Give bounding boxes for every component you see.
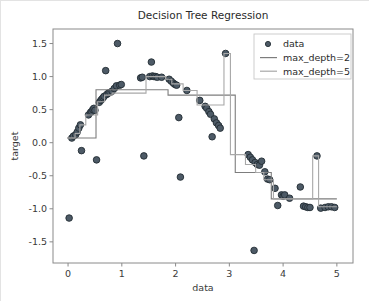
x-tick-label: 2 bbox=[173, 268, 179, 279]
y-tick-label: 0.5 bbox=[32, 104, 47, 115]
x-axis-label: data bbox=[192, 282, 213, 293]
data-point bbox=[118, 81, 125, 88]
data-point bbox=[66, 215, 73, 222]
chart-figure: 012345-1.5-1.0-0.50.00.51.01.5 datamax_d… bbox=[0, 0, 369, 301]
data-point bbox=[217, 125, 224, 132]
data-point bbox=[158, 74, 165, 81]
data-point bbox=[262, 168, 269, 175]
data-point bbox=[173, 82, 180, 89]
data-point bbox=[209, 133, 216, 140]
chart-title: Decision Tree Regression bbox=[138, 9, 269, 21]
data-point bbox=[102, 67, 109, 74]
x-tick-label: 1 bbox=[119, 268, 125, 279]
legend-marker-icon bbox=[265, 41, 270, 46]
y-axis-label: target bbox=[9, 131, 20, 160]
data-point bbox=[331, 204, 338, 211]
y-tick-label: -1.5 bbox=[28, 236, 47, 247]
data-point bbox=[93, 157, 100, 164]
data-point bbox=[114, 40, 121, 47]
data-point bbox=[297, 184, 304, 191]
data-point bbox=[78, 147, 85, 154]
decision-tree-regression-chart: 012345-1.5-1.0-0.50.00.51.01.5 datamax_d… bbox=[1, 1, 369, 301]
data-point bbox=[177, 174, 184, 181]
y-tick-label: 1.0 bbox=[32, 71, 47, 82]
y-tick-label: 0.0 bbox=[32, 137, 47, 148]
y-tick-label: -0.5 bbox=[28, 170, 47, 181]
data-point bbox=[286, 195, 293, 202]
data-point bbox=[251, 247, 258, 254]
y-tick-label: -1.0 bbox=[28, 203, 47, 214]
data-point bbox=[274, 202, 281, 209]
data-point bbox=[176, 114, 183, 121]
data-point bbox=[148, 59, 155, 66]
legend-label: data bbox=[283, 38, 304, 49]
data-point bbox=[139, 74, 146, 81]
x-tick-label: 0 bbox=[65, 268, 71, 279]
data-point bbox=[272, 185, 279, 192]
x-tick-label: 5 bbox=[334, 268, 340, 279]
data-point bbox=[307, 204, 314, 211]
x-tick-label: 4 bbox=[280, 268, 286, 279]
legend-label: max_depth=5 bbox=[283, 66, 350, 77]
x-tick-label: 3 bbox=[226, 268, 232, 279]
legend-label: max_depth=2 bbox=[283, 52, 350, 63]
legend-layer[interactable]: datamax_depth=2max_depth=5 bbox=[254, 34, 351, 79]
data-point bbox=[141, 153, 148, 160]
y-tick-label: 1.5 bbox=[32, 38, 47, 49]
data-point bbox=[258, 158, 265, 165]
